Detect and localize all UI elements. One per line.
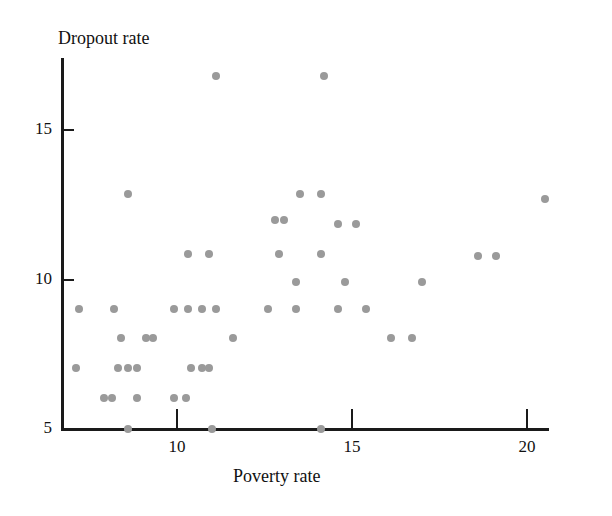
data-point [205, 364, 213, 372]
data-point [296, 190, 304, 198]
data-point [317, 190, 325, 198]
x-tick-mark-10 [176, 409, 178, 429]
data-point [334, 220, 342, 228]
data-point [275, 250, 283, 258]
data-point [317, 425, 325, 433]
data-point [108, 394, 116, 402]
y-tick-label-5: 5 [12, 418, 52, 438]
data-point [541, 195, 549, 203]
data-point [334, 305, 342, 313]
data-point [317, 250, 325, 258]
data-point [133, 394, 141, 402]
data-point [418, 278, 426, 286]
data-point [124, 364, 132, 372]
data-point [184, 250, 192, 258]
data-point [133, 364, 141, 372]
plot-area: Dropout rate Poverty rate 51015 101520 [0, 0, 612, 516]
data-point [212, 305, 220, 313]
data-point [72, 364, 80, 372]
y-axis-title: Dropout rate [58, 28, 149, 49]
data-point [352, 220, 360, 228]
data-point [170, 305, 178, 313]
data-point [114, 364, 122, 372]
data-point [292, 305, 300, 313]
data-point [110, 305, 118, 313]
y-tick-mark-5 [63, 428, 74, 430]
data-point [362, 305, 370, 313]
data-point [474, 252, 482, 260]
data-point [208, 425, 216, 433]
y-tick-label-10: 10 [12, 269, 52, 289]
y-axis-line [61, 58, 64, 431]
y-tick-mark-15 [63, 129, 74, 131]
x-tick-mark-20 [526, 409, 528, 429]
data-point [124, 190, 132, 198]
data-point [117, 334, 125, 342]
data-point [387, 334, 395, 342]
data-point [187, 364, 195, 372]
data-point [100, 394, 108, 402]
scatter-plot-figure: Dropout rate Poverty rate 51015 101520 [0, 0, 612, 516]
data-point [292, 278, 300, 286]
data-point [492, 252, 500, 260]
data-point [341, 278, 349, 286]
x-tick-label-15: 15 [332, 437, 372, 457]
data-point [320, 72, 328, 80]
data-point [280, 216, 288, 224]
data-point [182, 394, 190, 402]
data-point [212, 72, 220, 80]
data-point [75, 305, 83, 313]
data-point [229, 334, 237, 342]
data-point [264, 305, 272, 313]
data-point [149, 334, 157, 342]
data-point [184, 305, 192, 313]
x-tick-mark-15 [351, 409, 353, 429]
y-tick-mark-10 [63, 279, 74, 281]
y-tick-label-15: 15 [12, 119, 52, 139]
data-point [408, 334, 416, 342]
x-tick-label-10: 10 [157, 437, 197, 457]
x-tick-label-20: 20 [507, 437, 547, 457]
x-axis-title: Poverty rate [233, 466, 320, 487]
data-point [124, 425, 132, 433]
data-point [205, 250, 213, 258]
data-point [198, 305, 206, 313]
data-point [170, 394, 178, 402]
data-point [271, 216, 279, 224]
x-axis-line [61, 428, 549, 431]
